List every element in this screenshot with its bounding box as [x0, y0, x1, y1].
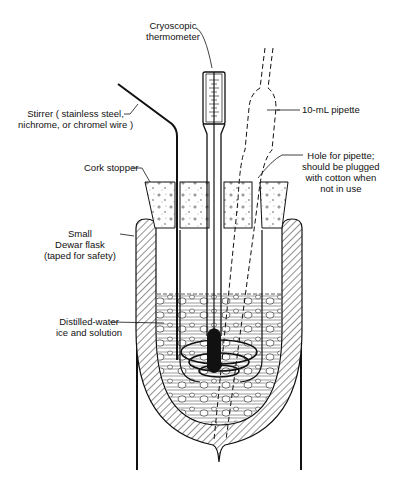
- cork-stopper-label: Cork stopper: [84, 162, 138, 173]
- stirrer-label: Stirrer ( stainless steel, nichrome, or …: [18, 108, 133, 130]
- stirrer-label-line1: Stirrer ( stainless steel,: [18, 108, 133, 119]
- mixture-label: Distilled-water ice and solution: [56, 316, 122, 338]
- stirrer-label-line2: nichrome, or chromel wire ): [18, 119, 133, 130]
- mixture-label-line1: Distilled-water: [56, 316, 122, 327]
- mixture-label-line2: ice and solution: [56, 327, 122, 338]
- hole-label-line2: should be plugged: [302, 161, 380, 172]
- thermometer-label-line2: thermometer: [146, 31, 200, 42]
- dewar-flask-label: Small Dewar flask (taped for safety): [44, 228, 116, 261]
- pipette-label: 10-mL pipette: [302, 104, 360, 115]
- thermometer-label-line1: Cryoscopic: [146, 20, 200, 31]
- cork-stopper: [145, 182, 288, 228]
- hole-label: Hole for pipette; should be plugged with…: [302, 150, 380, 194]
- cork-stopper-label-line1: Cork stopper: [84, 162, 138, 173]
- hole-label-line3: with cotton when: [302, 172, 380, 183]
- dewar-flask-label-line2: Dewar flask: [44, 239, 116, 250]
- apparatus-diagram: Cryoscopic thermometer Stirrer ( stainle…: [0, 0, 393, 479]
- dewar-flask-label-line1: Small: [44, 228, 116, 239]
- hole-label-line4: not in use: [302, 183, 380, 194]
- dewar-flask-label-line3: (taped for safety): [44, 250, 116, 261]
- hole-label-line1: Hole for pipette;: [302, 150, 380, 161]
- thermometer-label: Cryoscopic thermometer: [146, 20, 200, 42]
- pipette-label-line1: 10-mL pipette: [302, 104, 360, 115]
